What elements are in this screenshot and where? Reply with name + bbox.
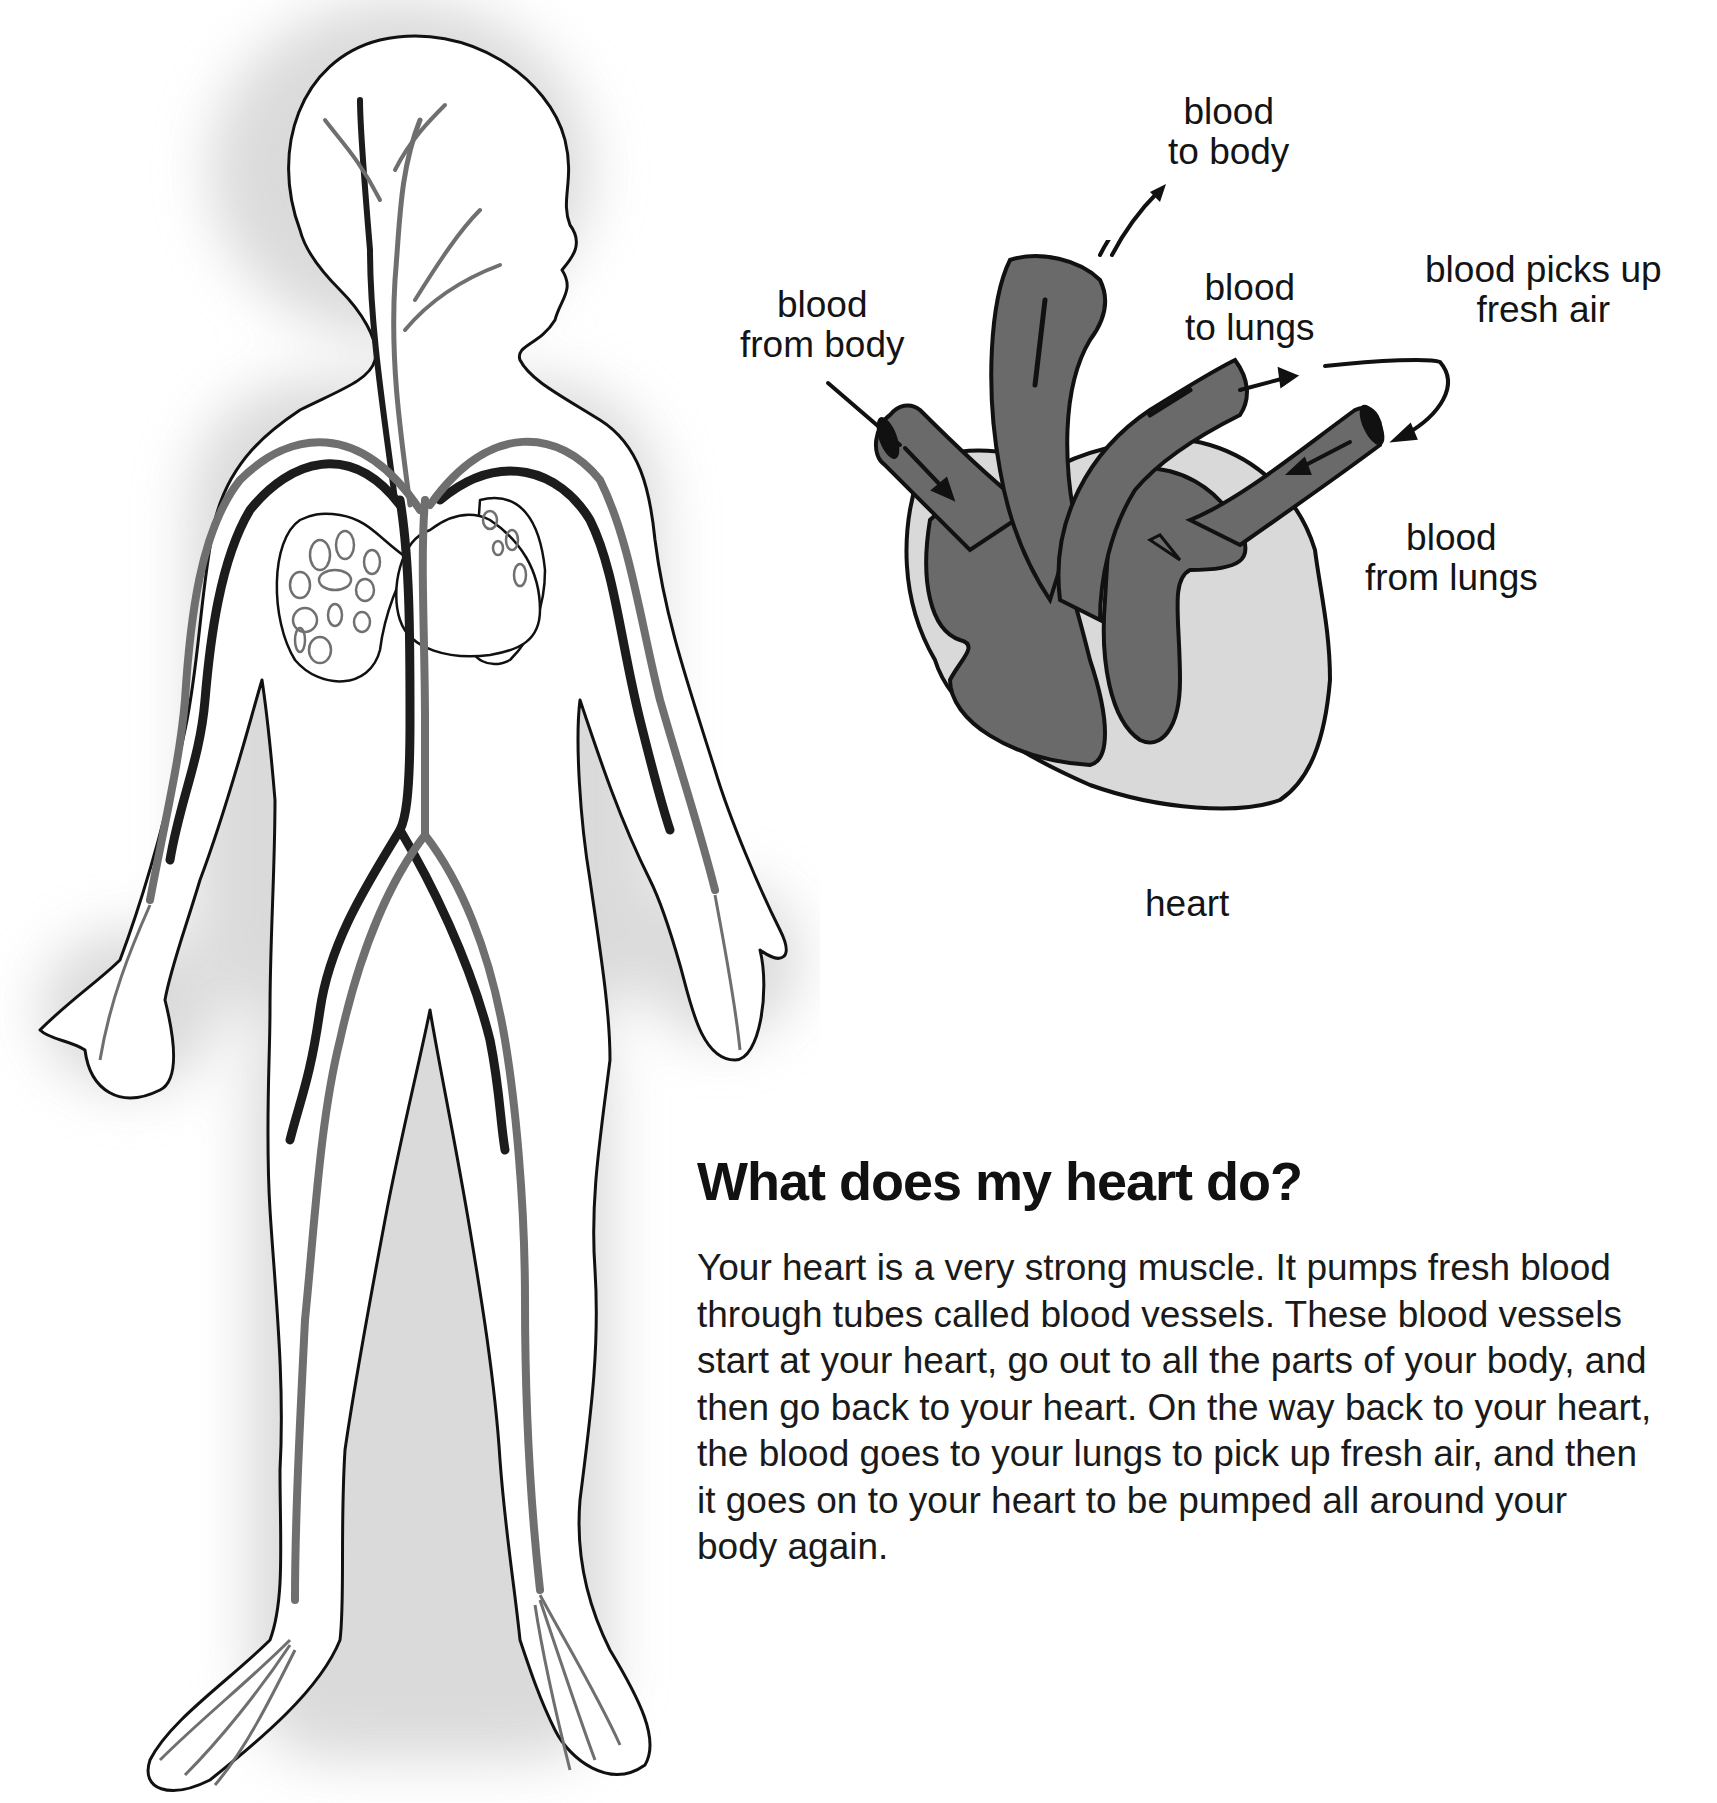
article-line: body again.: [697, 1524, 1717, 1571]
arrow-up-right-icon: [1100, 180, 1180, 260]
article-line: Your heart is a very strong muscle. It p…: [697, 1245, 1717, 1292]
article-line: then go back to your heart. On the way b…: [697, 1385, 1717, 1432]
article-body: Your heart is a very strong muscle. It p…: [697, 1245, 1717, 1571]
article-line: it goes on to your heart to be pumped al…: [697, 1478, 1717, 1525]
label-blood-picks-up-fresh-air: blood picks up fresh air: [1425, 250, 1662, 330]
label-blood-from-lungs: blood from lungs: [1365, 518, 1538, 598]
worksheet-page: blood to body blood from body blood to l…: [0, 0, 1717, 1803]
label-blood-to-body: blood to body: [1168, 92, 1289, 172]
heart-caption: heart: [1145, 884, 1229, 924]
label-blood-from-body: blood from body: [740, 285, 905, 365]
arrow-down-right-icon: [820, 375, 910, 455]
article-line: through tubes called blood vessels. Thes…: [697, 1292, 1717, 1339]
article-line: start at your heart, go out to all the p…: [697, 1338, 1717, 1385]
label-blood-to-lungs: blood to lungs: [1185, 268, 1315, 348]
article-line: the blood goes to your lungs to pick up …: [697, 1431, 1717, 1478]
article-title: What does my heart do?: [697, 1150, 1302, 1212]
